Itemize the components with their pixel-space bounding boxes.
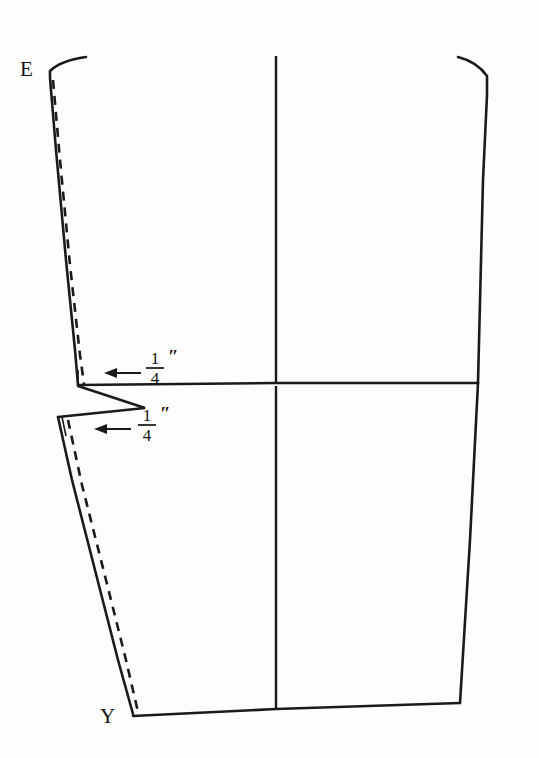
lower-piece-hem-line bbox=[133, 703, 460, 716]
label-point-e: E bbox=[20, 57, 33, 81]
upper-measure-inch-mark: ″ bbox=[168, 346, 179, 367]
lower-measure-arrow-head-icon bbox=[94, 424, 107, 434]
upper-piece-right-outline bbox=[458, 57, 487, 383]
lower-piece-seam-dashed-line bbox=[68, 420, 138, 712]
pattern-diagram-canvas: E Y 1 4 ″ 1 4 ″ bbox=[0, 0, 539, 758]
upper-measure-denominator: 4 bbox=[151, 369, 160, 388]
upper-piece-seam-dashed-line bbox=[53, 80, 84, 384]
upper-measure-arrow-head-icon bbox=[104, 368, 117, 378]
upper-measure-numerator: 1 bbox=[151, 349, 160, 368]
upper-piece-left-outline bbox=[50, 57, 86, 385]
upper-piece-waist-line bbox=[78, 383, 478, 385]
lower-measure-denominator: 4 bbox=[143, 426, 152, 445]
measurement-upper-seam-allowance: 1 4 ″ bbox=[104, 346, 179, 388]
lower-measure-numerator: 1 bbox=[143, 406, 152, 425]
pattern-drawing: E Y 1 4 ″ 1 4 ″ bbox=[0, 0, 539, 758]
lower-measure-inch-mark: ″ bbox=[160, 403, 171, 424]
label-point-y: Y bbox=[100, 704, 115, 728]
waist-notch-v-cut bbox=[58, 386, 145, 417]
lower-piece-right-outline bbox=[460, 383, 478, 703]
lower-piece-left-outline bbox=[58, 417, 133, 714]
